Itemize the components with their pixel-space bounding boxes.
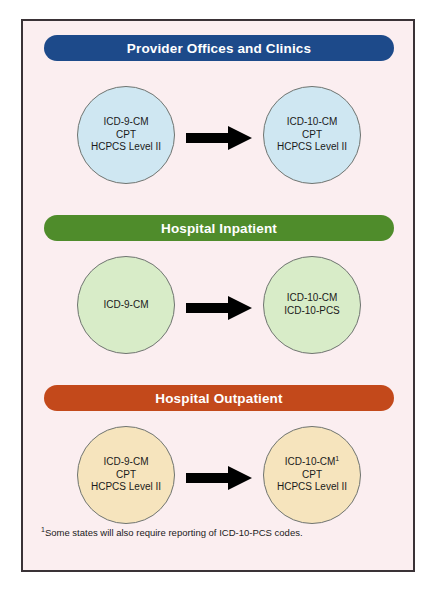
diagram-frame: Provider Offices and Clinics ICD-9-CM CP… [21, 19, 415, 572]
flow-row-hospital-inpatient: ICD-9-CM ICD-10-CM ICD-10-PCS [23, 253, 413, 358]
arrow-right-icon [186, 466, 252, 490]
node-line: HCPCS Level II [91, 481, 161, 494]
arrow-right-icon [186, 296, 252, 320]
node-line: CPT [116, 129, 136, 142]
node-line: HCPCS Level II [277, 141, 347, 154]
arrow-right-icon [186, 126, 252, 150]
footnote-marker: 1 [335, 454, 339, 461]
footnote: 1Some states will also require reporting… [41, 527, 397, 538]
source-node-hospital-inpatient: ICD-9-CM [77, 256, 175, 354]
section-header-label: Hospital Inpatient [161, 221, 277, 236]
footnote-text: Some states will also require reporting … [45, 527, 303, 538]
node-line: ICD-9-CM [104, 299, 149, 312]
node-line: ICD-10-CM1 [285, 456, 339, 469]
diagram-page: Provider Offices and Clinics ICD-9-CM CP… [0, 0, 438, 606]
node-line: HCPCS Level II [277, 481, 347, 494]
node-line: CPT [302, 469, 322, 482]
section-header-hospital-inpatient: Hospital Inpatient [44, 215, 394, 241]
node-line: ICD-10-CM [287, 116, 338, 129]
flow-row-hospital-outpatient: ICD-9-CM CPT HCPCS Level II ICD-10-CM1 C… [23, 423, 413, 528]
node-line: CPT [116, 469, 136, 482]
flow-row-provider-offices-and-clinics: ICD-9-CM CPT HCPCS Level II ICD-10-CM CP… [23, 83, 413, 188]
source-node-hospital-outpatient: ICD-9-CM CPT HCPCS Level II [77, 426, 175, 524]
node-line: ICD-9-CM [104, 116, 149, 129]
section-header-label: Provider Offices and Clinics [127, 41, 311, 56]
section-header-hospital-outpatient: Hospital Outpatient [44, 385, 394, 411]
target-node-provider-offices-and-clinics: ICD-10-CM CPT HCPCS Level II [263, 86, 361, 184]
node-line: ICD-10-CM [287, 292, 338, 305]
target-node-hospital-outpatient: ICD-10-CM1 CPT HCPCS Level II [263, 426, 361, 524]
node-line: ICD-9-CM [104, 456, 149, 469]
node-line: CPT [302, 129, 322, 142]
source-node-provider-offices-and-clinics: ICD-9-CM CPT HCPCS Level II [77, 86, 175, 184]
node-line: HCPCS Level II [91, 141, 161, 154]
section-header-label: Hospital Outpatient [155, 391, 282, 406]
node-line: ICD-10-PCS [284, 305, 340, 318]
target-node-hospital-inpatient: ICD-10-CM ICD-10-PCS [263, 256, 361, 354]
section-header-provider-offices-and-clinics: Provider Offices and Clinics [44, 35, 394, 61]
node-line-text: ICD-10-CM [285, 456, 336, 467]
